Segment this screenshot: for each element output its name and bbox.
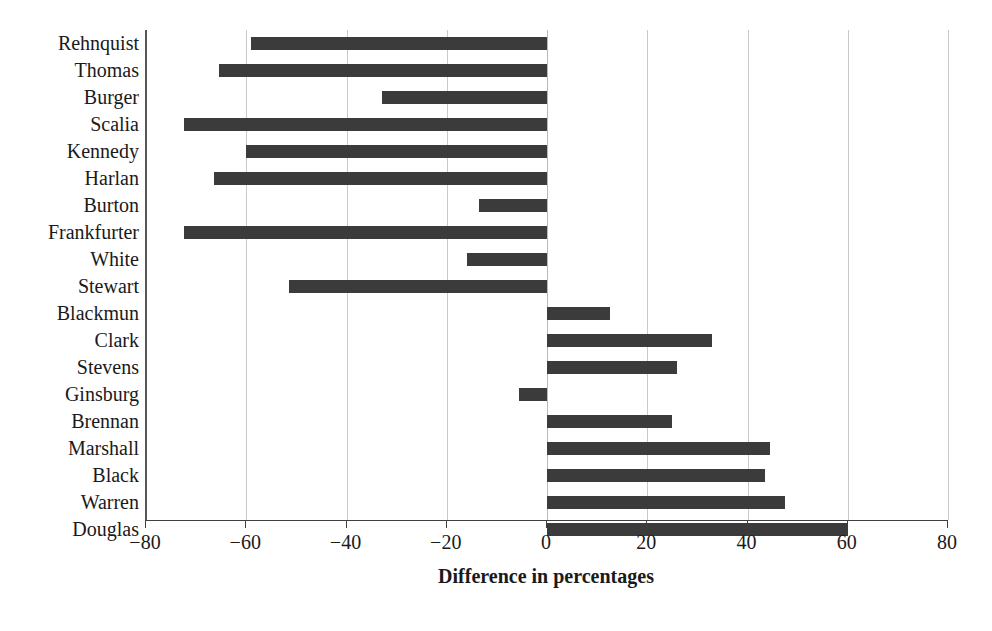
bar-row [146,300,947,327]
bar-scalia[interactable] [184,118,547,131]
bar-row [146,138,947,165]
x-tick--80 [145,520,146,528]
y-label-blackmun: Blackmun [0,300,139,327]
bar-row [146,381,947,408]
bar-clark[interactable] [547,334,712,347]
x-tick--40 [346,520,347,528]
bar-row [146,219,947,246]
y-label-frankfurter: Frankfurter [0,219,139,246]
y-label-warren: Warren [0,489,139,516]
x-tick-label--40: −40 [306,531,386,554]
bar-black[interactable] [547,469,765,482]
bar-douglas[interactable] [547,523,848,536]
bar-warren[interactable] [547,496,785,509]
y-axis-labels: RehnquistThomasBurgerScaliaKennedyHarlan… [0,30,139,520]
x-tick-20 [646,520,647,528]
bar-row [146,354,947,381]
y-label-harlan: Harlan [0,165,139,192]
bar-rehnquist[interactable] [251,37,547,50]
bar-row [146,273,947,300]
x-tick-80 [947,520,948,528]
y-label-burton: Burton [0,192,139,219]
x-tick-0 [546,520,547,528]
bar-thomas[interactable] [219,64,547,77]
x-tick-label-0: 0 [506,531,586,554]
x-tick-label-80: 80 [907,531,987,554]
x-tick--60 [245,520,246,528]
x-tick-label--80: −80 [105,531,185,554]
bar-row [146,489,947,516]
y-label-ginsburg: Ginsburg [0,381,139,408]
y-label-white: White [0,246,139,273]
bar-row [146,165,947,192]
y-label-scalia: Scalia [0,111,139,138]
bar-row [146,435,947,462]
y-label-black: Black [0,462,139,489]
x-tick-label-40: 40 [707,531,787,554]
bar-harlan[interactable] [214,172,547,185]
bar-white[interactable] [467,253,547,266]
y-label-thomas: Thomas [0,57,139,84]
bar-brennan[interactable] [547,415,672,428]
x-tick-60 [847,520,848,528]
x-axis-title: Difference in percentages [145,565,947,588]
y-label-brennan: Brennan [0,408,139,435]
x-tick--20 [446,520,447,528]
bar-frankfurter[interactable] [184,226,547,239]
x-tick-label-60: 60 [807,531,887,554]
y-label-stevens: Stevens [0,354,139,381]
x-tick-label--20: −20 [406,531,486,554]
bar-stevens[interactable] [547,361,677,374]
bar-marshall[interactable] [547,442,770,455]
x-tick-label-20: 20 [606,531,686,554]
y-label-clark: Clark [0,327,139,354]
bar-kennedy[interactable] [246,145,547,158]
bar-blackmun[interactable] [547,307,610,320]
bar-ginsburg[interactable] [519,388,547,401]
y-label-stewart: Stewart [0,273,139,300]
bar-row [146,408,947,435]
bar-row [146,192,947,219]
bar-row [146,30,947,57]
bar-row [146,327,947,354]
y-label-kennedy: Kennedy [0,138,139,165]
x-tick-40 [747,520,748,528]
bar-row [146,57,947,84]
x-tick-label--60: −60 [205,531,285,554]
gridline-80 [948,30,949,520]
y-label-rehnquist: Rehnquist [0,30,139,57]
bar-burton[interactable] [479,199,547,212]
chart-page: RehnquistThomasBurgerScaliaKennedyHarlan… [0,0,992,631]
y-label-marshall: Marshall [0,435,139,462]
bar-stewart[interactable] [289,280,547,293]
bar-burger[interactable] [382,91,547,104]
bar-row [146,111,947,138]
y-label-burger: Burger [0,84,139,111]
bar-row [146,462,947,489]
bar-row [146,246,947,273]
bar-row [146,84,947,111]
plot-area [145,30,947,520]
